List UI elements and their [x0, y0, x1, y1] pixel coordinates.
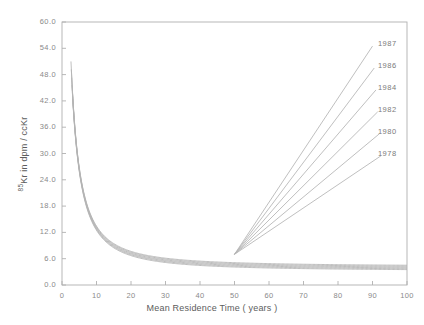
- y-tick-label: 48.0: [40, 70, 56, 79]
- y-tick-label: 60.0: [40, 17, 56, 26]
- y-tick-label: 24.0: [40, 175, 56, 184]
- x-tick-label: 0: [47, 291, 77, 300]
- series-label-1986: 1986: [378, 61, 397, 70]
- x-tick-label: 20: [116, 291, 146, 300]
- series-label-1984: 1984: [378, 83, 397, 92]
- y-tick-label: 6.0: [44, 254, 56, 263]
- series-label-1982: 1982: [378, 105, 397, 114]
- series-label-1980: 1980: [378, 127, 397, 136]
- x-tick-label: 60: [254, 291, 284, 300]
- y-axis-title: 85Kr in dpm / ccKr: [17, 79, 29, 229]
- series-label-1978: 1978: [378, 149, 397, 158]
- y-tick-label: 36.0: [40, 122, 56, 131]
- x-tick-label: 30: [151, 291, 181, 300]
- x-tick-label: 50: [220, 291, 250, 300]
- y-tick-label: 42.0: [40, 96, 56, 105]
- plot-area: [0, 0, 424, 325]
- x-tick-label: 10: [82, 291, 112, 300]
- x-tick-label: 90: [358, 291, 388, 300]
- y-tick-label: 12.0: [40, 227, 56, 236]
- y-axis-title-text: Kr in dpm / ccKr: [19, 117, 29, 184]
- x-tick-label: 70: [289, 291, 319, 300]
- chart-container: 0.06.012.018.024.030.036.042.048.054.060…: [0, 0, 424, 325]
- x-axis-title: Mean Residence Time ( years ): [0, 303, 424, 313]
- y-tick-label: 0.0: [44, 280, 56, 289]
- x-tick-label: 80: [323, 291, 353, 300]
- x-tick-label: 40: [185, 291, 215, 300]
- x-tick-label: 100: [392, 291, 422, 300]
- y-tick-label: 18.0: [40, 201, 56, 210]
- series-label-1987: 1987: [378, 39, 397, 48]
- y-axis-title-superscript: 85: [17, 184, 24, 192]
- y-tick-label: 54.0: [40, 43, 56, 52]
- y-tick-label: 30.0: [40, 149, 56, 158]
